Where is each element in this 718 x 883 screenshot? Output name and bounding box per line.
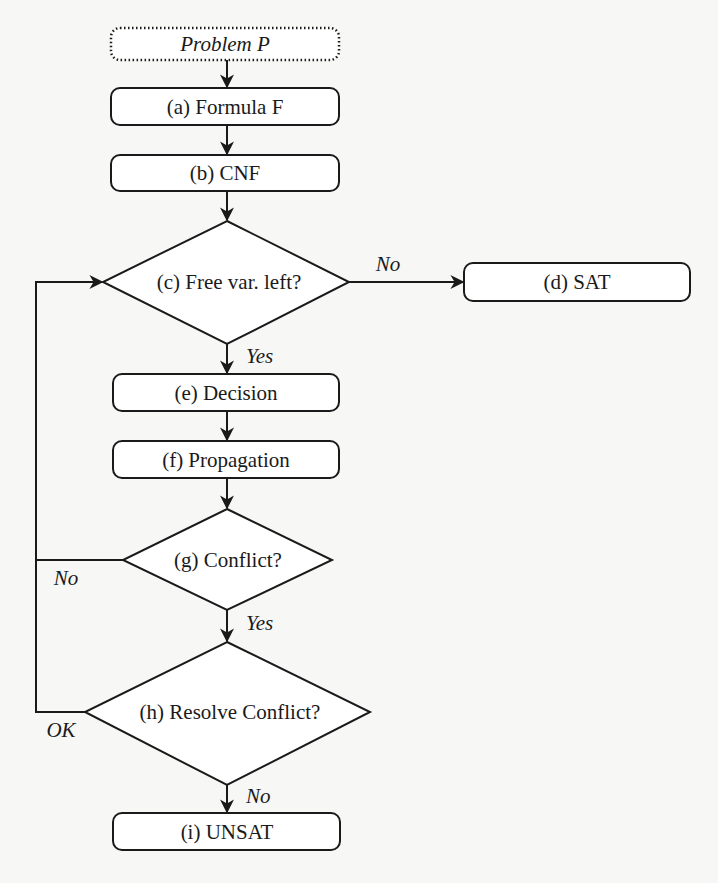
node-g-conflict-decision: (g) Conflict? [123, 509, 332, 610]
edge-label-h-to-i: No [245, 784, 271, 808]
node-c-label: (c) Free var. left? [157, 270, 302, 294]
flowchart: Problem P (a) Formula F (b) CNF (c) Free… [0, 0, 718, 883]
node-g-label: (g) Conflict? [174, 548, 282, 572]
node-f-label: (f) Propagation [162, 448, 290, 472]
node-h-resolve-conflict-decision: (h) Resolve Conflict? [85, 642, 370, 785]
node-i-unsat: (i) UNSAT [113, 813, 340, 850]
edge-h-to-c-loop [36, 282, 102, 712]
node-d-label: (d) SAT [543, 270, 610, 294]
edge-label-g-to-h: Yes [246, 611, 273, 635]
node-h-label: (h) Resolve Conflict? [140, 700, 321, 724]
node-i-label: (i) UNSAT [181, 820, 274, 844]
node-e-decision: (e) Decision [113, 374, 339, 411]
node-c-free-var-decision: (c) Free var. left? [103, 221, 349, 344]
node-a-formula: (a) Formula F [111, 88, 339, 125]
node-b-cnf: (b) CNF [111, 155, 339, 191]
node-d-sat: (d) SAT [464, 263, 690, 301]
node-e-label: (e) Decision [174, 381, 278, 405]
node-f-propagation: (f) Propagation [113, 441, 339, 478]
node-a-label: (a) Formula F [167, 95, 284, 119]
edge-label-h-to-c: OK [46, 718, 76, 742]
node-problem-p-label: Problem P [179, 32, 270, 56]
edge-label-c-to-e: Yes [246, 344, 273, 368]
edge-label-c-to-d: No [375, 252, 401, 276]
edge-label-g-to-c: No [53, 566, 79, 590]
node-problem-p: Problem P [111, 28, 339, 60]
node-b-label: (b) CNF [190, 161, 261, 185]
